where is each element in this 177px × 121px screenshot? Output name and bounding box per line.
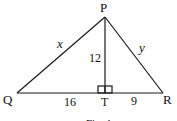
vertex-t-label: T xyxy=(101,95,109,109)
altitude-pt-label: 12 xyxy=(89,51,101,65)
side-pq-label: x xyxy=(56,36,63,51)
vertex-p-label: P xyxy=(100,0,107,15)
segment-tr-label: 9 xyxy=(131,94,137,108)
vertex-q-label: Q xyxy=(3,92,13,107)
segment-qt-label: 16 xyxy=(64,95,76,109)
triangle-diagram: P Q R T x y 12 16 9 Fig. 1 xyxy=(0,0,177,121)
side-pr xyxy=(105,17,163,93)
figure-caption: Fig. 1 xyxy=(86,117,112,121)
vertex-r-label: R xyxy=(163,92,172,107)
side-pr-label: y xyxy=(137,40,145,55)
